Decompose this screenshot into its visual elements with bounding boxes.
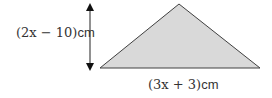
triangle: [100, 4, 260, 68]
base-expr: (3x + 3): [148, 77, 201, 92]
height-expr: (2x − 10): [16, 25, 77, 40]
height-unit: cm: [77, 25, 94, 40]
height-label: (2x − 10)cm: [16, 25, 95, 40]
diagram-canvas: [0, 0, 272, 98]
base-unit: cm: [201, 77, 218, 92]
base-label: (3x + 3)cm: [148, 77, 219, 92]
